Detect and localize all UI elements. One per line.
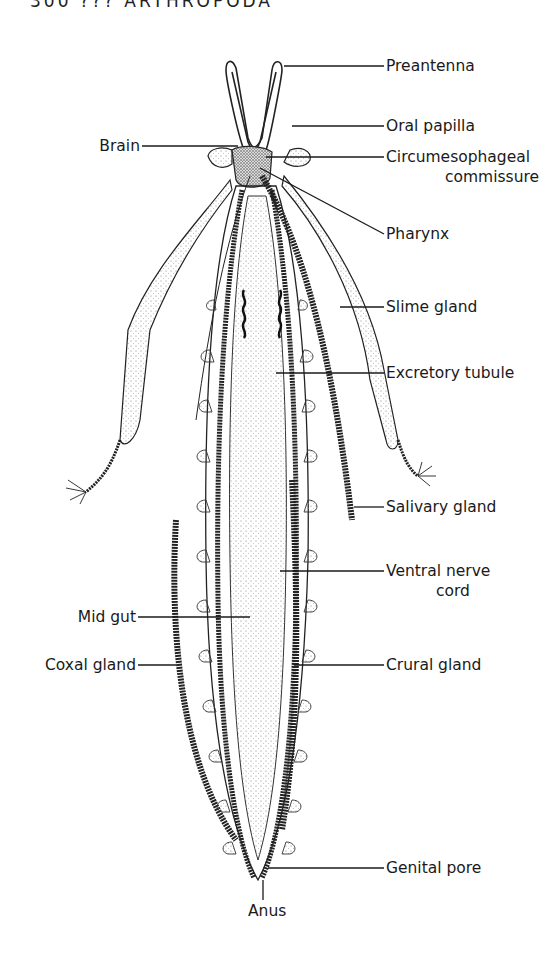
label-pharynx: Pharynx (386, 225, 449, 243)
label-oral-papilla: Oral papilla (386, 117, 475, 135)
label-circumesophageal-line2: commissure (445, 168, 539, 186)
label-ventral-nerve-cord-line2: cord (436, 582, 470, 600)
coxal-gland-shape (174, 520, 236, 840)
label-salivary-gland: Salivary gland (386, 498, 496, 516)
slime-gland-left (120, 180, 232, 444)
mid-gut-shape (230, 196, 287, 860)
label-brain: Brain (92, 137, 140, 155)
label-ventral-nerve-cord: Ventral nerve (386, 562, 490, 580)
label-slime-gland: Slime gland (386, 298, 477, 316)
oral-papilla-left (208, 148, 232, 167)
label-crural-gland: Crural gland (386, 656, 481, 674)
anatomy-illustration (0, 0, 554, 956)
label-preantenna: Preantenna (386, 57, 475, 75)
label-coxal-gland: Coxal gland (26, 656, 136, 674)
label-mid-gut: Mid gut (66, 608, 136, 626)
label-circumesophageal: Circumesophageal (386, 148, 530, 166)
preantenna-shape (226, 61, 282, 159)
label-excretory-tubule: Excretory tubule (386, 364, 514, 382)
label-anus: Anus (248, 902, 286, 920)
label-genital-pore: Genital pore (386, 859, 481, 877)
